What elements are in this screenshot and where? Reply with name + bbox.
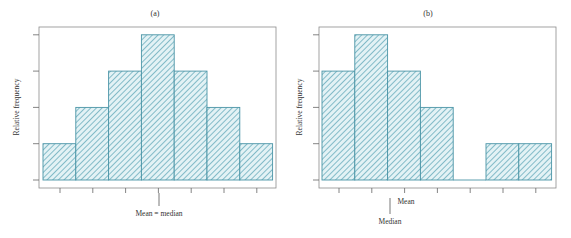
panel-b-mean-label: Mean xyxy=(397,197,414,206)
panel-a-y-ticks xyxy=(33,35,39,180)
panel-a-title: (a) xyxy=(151,9,160,18)
histogram-bar xyxy=(240,144,273,180)
histogram-bar xyxy=(355,35,388,180)
panel-a-mean-median-label: Mean = median xyxy=(135,209,182,218)
histogram-bar xyxy=(322,71,355,180)
histogram-bar xyxy=(141,35,174,180)
figure: (a) Relative frequency Mean = median (b)… xyxy=(0,0,571,238)
panel-b-x-ticks xyxy=(339,188,536,193)
panel-b-y-ticks xyxy=(313,35,319,180)
histogram-bar xyxy=(519,144,552,180)
panel-b-median-label: Median xyxy=(379,217,402,226)
histogram-bar xyxy=(174,71,207,180)
histogram-bar xyxy=(207,107,240,180)
panel-b-ylabel: Relative frequency xyxy=(295,78,304,135)
panel-b-bars xyxy=(322,35,552,180)
panel-b-title: (b) xyxy=(423,9,433,18)
panel-a-ylabel: Relative frequency xyxy=(12,78,21,135)
histogram-panel-b: (b) Relative frequency Mean Median xyxy=(295,9,556,226)
histogram-bar xyxy=(43,144,76,180)
histogram-bar xyxy=(486,144,519,180)
histogram-panel-a: (a) Relative frequency Mean = median xyxy=(12,9,276,218)
histogram-bar xyxy=(109,71,142,180)
histogram-bar xyxy=(76,107,109,180)
panel-a-x-ticks xyxy=(60,188,257,193)
panel-a-bars xyxy=(43,35,273,180)
histogram-bar xyxy=(420,107,453,180)
histogram-bar xyxy=(388,71,421,180)
